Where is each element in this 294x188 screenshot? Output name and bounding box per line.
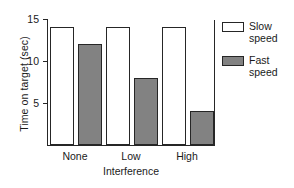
bar-series-group	[48, 20, 214, 145]
bar-low-fast	[134, 78, 158, 145]
y-axis-title: Time on target (sec)	[18, 19, 30, 149]
legend-label: Slow speed	[249, 21, 278, 44]
bar-none-fast	[78, 44, 102, 145]
legend-label: Fast speed	[249, 55, 278, 78]
legend-swatch-fast	[222, 56, 244, 66]
y-tick-label: 10	[27, 55, 39, 67]
bar-high-slow	[162, 27, 186, 145]
plot-area: 15105	[47, 20, 215, 146]
y-tick-label: 15	[27, 13, 39, 25]
chart-legend: Slow speedFast speed	[222, 21, 294, 89]
bar-low-slow	[106, 27, 130, 145]
bar-high-fast	[190, 111, 214, 145]
y-tick-label: 5	[33, 97, 39, 109]
legend-item: Fast speed	[222, 55, 294, 78]
legend-item: Slow speed	[222, 21, 294, 44]
legend-swatch-slow	[222, 22, 244, 32]
bar-none-slow	[50, 27, 74, 145]
bar-chart-figure: Time on target (sec) 15105 NoneLowHigh I…	[0, 0, 294, 188]
x-tick-label: High	[147, 150, 227, 162]
x-axis-title: Interference	[47, 165, 215, 177]
